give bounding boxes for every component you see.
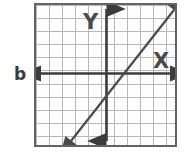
graph-canvas: Y X xyxy=(36,5,175,145)
coordinate-grid-frame: Y X xyxy=(34,3,177,147)
y-axis-label: Y xyxy=(82,10,99,34)
problem-letter-label: b xyxy=(8,62,32,86)
x-axis-label: X xyxy=(153,49,169,73)
worksheet-graph-figure: b xyxy=(0,0,186,155)
